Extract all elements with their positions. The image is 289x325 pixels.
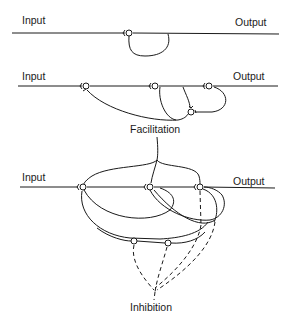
- neuron-node: [147, 184, 153, 190]
- neuron-node: [152, 83, 158, 89]
- diagram1-output-line: [133, 33, 279, 34]
- neuron-node: [197, 184, 203, 190]
- diagram2-facilitation: [18, 83, 278, 120]
- inhibitory-node: [131, 238, 137, 244]
- neuron-node: [206, 83, 212, 89]
- neural-circuit-diagrams: [0, 0, 289, 325]
- neuron-node: [83, 83, 89, 89]
- diagram1-self-loop: [12, 30, 279, 56]
- facilitation-node: [188, 109, 194, 115]
- diagram3-inhibition: [20, 137, 275, 300]
- recurrent-loop: [129, 34, 169, 56]
- inhibitory-node: [165, 240, 171, 246]
- neuron-node: [80, 184, 86, 190]
- neuron-node: [126, 30, 132, 36]
